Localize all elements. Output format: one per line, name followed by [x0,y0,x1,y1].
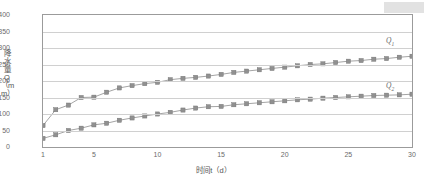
data-point-marker-q2 [194,106,198,110]
data-point-marker-q2 [257,101,261,105]
data-point-marker-q1 [66,103,70,107]
series-annotation-q1: Q1 [386,36,394,47]
gridline [43,81,412,82]
data-point-marker-q1 [283,65,287,69]
data-point-marker-q2 [283,99,287,103]
gridline [43,32,412,33]
gridline [43,65,412,66]
data-point-marker-q2 [105,121,109,125]
chart-figure: 降水量Q（mm） 时间t（d） 050100150200250300350400… [0,0,427,186]
series-annotation-q2-sub: 2 [391,86,394,92]
data-point-marker-q2 [181,108,185,112]
data-point-marker-q1 [54,108,58,112]
y-tick-label: 50 [0,127,10,134]
data-point-marker-q1 [372,57,376,61]
data-point-marker-q2 [219,104,223,108]
series-line-q1 [43,56,412,125]
data-point-marker-q2 [206,105,210,109]
data-point-marker-q1 [194,75,198,79]
data-point-marker-q1 [384,56,388,60]
x-tick-label: 20 [273,151,297,158]
corner-decoration-block [384,2,424,13]
series-line-q2 [43,94,412,138]
data-point-marker-q2 [410,92,412,96]
data-point-marker-q2 [232,103,236,107]
data-point-marker-q1 [397,55,401,59]
data-point-marker-q1 [232,70,236,74]
x-tick-label: 30 [400,151,424,158]
series-annotation-q1-sub: 1 [391,41,394,47]
data-point-marker-q2 [270,100,274,104]
data-point-marker-q2 [244,102,248,106]
data-point-marker-q1 [143,82,147,86]
data-point-marker-q1 [244,69,248,73]
data-point-marker-q1 [43,123,45,127]
y-tick-label: 150 [0,94,10,101]
data-point-marker-q1 [219,72,223,76]
y-tick-label: 400 [0,11,10,18]
y-tick-label: 100 [0,110,10,117]
data-point-marker-q2 [43,136,45,140]
data-point-marker-q2 [54,133,58,137]
y-tick-label: 350 [0,28,10,35]
y-axis-title: 降水量Q（mm） [1,50,13,99]
data-point-marker-q1 [181,76,185,80]
data-point-marker-q2 [397,93,401,97]
gridline [43,131,412,132]
x-tick-label: 10 [146,151,170,158]
data-point-marker-q1 [359,58,363,62]
x-tick-label: 1 [31,151,55,158]
y-tick-label: 0 [0,143,10,150]
data-point-marker-q1 [117,86,121,90]
data-point-marker-q1 [270,66,274,70]
gridline [43,98,412,99]
data-point-marker-q1 [410,54,412,58]
data-point-marker-q1 [206,74,210,78]
x-tick-label: 5 [82,151,106,158]
x-tick-label: 15 [209,151,233,158]
data-point-marker-q1 [257,68,261,72]
plot-area [42,14,413,148]
y-tick-label: 250 [0,61,10,68]
series-annotation-q2: Q2 [386,81,394,92]
y-tick-label: 300 [0,44,10,51]
gridline [43,48,412,49]
data-point-marker-q2 [117,118,121,122]
data-point-marker-q1 [346,59,350,63]
data-point-marker-q2 [130,116,134,120]
x-axis-title: 时间t（d） [0,164,427,175]
data-point-marker-q1 [105,90,109,94]
data-point-marker-q2 [92,123,96,127]
data-point-marker-q1 [130,84,134,88]
gridline [43,114,412,115]
x-tick-label: 25 [336,151,360,158]
y-tick-label: 200 [0,77,10,84]
